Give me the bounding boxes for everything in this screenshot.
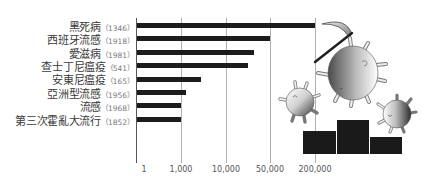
bar	[137, 63, 248, 68]
category-label: 安東尼瘟疫（165）	[0, 72, 134, 85]
category-label: 西班牙流感（1918）	[0, 32, 134, 45]
gridline	[270, 18, 271, 163]
category-label: 第三次霍亂大流行（1852）	[0, 113, 134, 126]
category-name: 第三次霍亂大流行	[15, 115, 101, 128]
category-label: 愛滋病（1981）	[0, 46, 134, 59]
category-labels: 黑死病（1346） 西班牙流感（1918） 愛滋病（1981） 查士丁尼瘟疫（5…	[0, 19, 134, 126]
virus-large-icon	[318, 38, 386, 106]
bar	[137, 36, 270, 41]
category-label: 流感（1968）	[0, 99, 134, 112]
x-tick-label: 1,000	[170, 165, 193, 174]
category-label: 查士丁尼瘟疫（541）	[0, 59, 134, 72]
bar	[137, 77, 201, 82]
category-label: 黑死病（1346）	[0, 19, 134, 32]
x-tick-label: 50,000	[256, 165, 284, 174]
x-tick-label: 1	[141, 165, 146, 174]
bar	[137, 90, 186, 95]
bar	[137, 117, 181, 122]
virus-small-right-icon	[378, 95, 416, 132]
category-year: （1852）	[101, 118, 134, 127]
podium-icon	[303, 120, 402, 154]
bar	[137, 50, 254, 55]
category-label: 亞洲型流感（1956）	[0, 86, 134, 99]
x-tick-label: 200,000	[298, 165, 331, 174]
bar	[137, 103, 181, 108]
x-tick-label: 10,000	[212, 165, 240, 174]
gridline	[315, 18, 316, 163]
scythe-icon	[315, 22, 352, 62]
bar	[137, 23, 315, 28]
virus-small-left-icon	[280, 82, 319, 122]
